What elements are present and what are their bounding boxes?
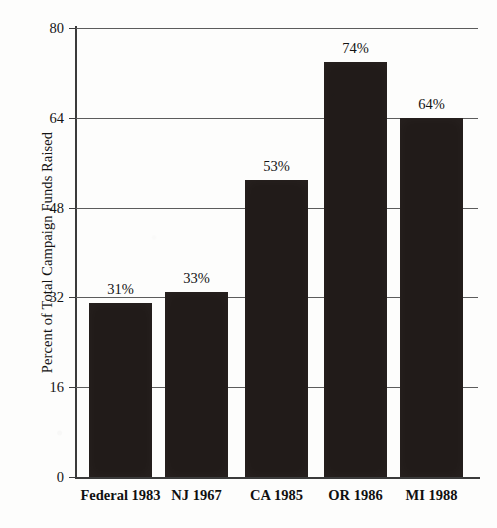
y-tick-mark-32 <box>69 297 76 298</box>
x-axis-line <box>75 477 480 479</box>
bar-value-label-4: 64% <box>382 97 481 112</box>
y-tick-mark-0 <box>69 477 76 478</box>
y-tick-mark-48 <box>69 208 76 209</box>
bar-4[interactable] <box>400 118 463 477</box>
bar-2[interactable] <box>245 180 308 477</box>
bar-value-label-3: 74% <box>306 41 405 56</box>
x-axis-category-label-4: MI 1988 <box>378 488 485 503</box>
bar-0[interactable] <box>89 303 152 477</box>
bar-1[interactable] <box>165 292 228 477</box>
y-axis-line <box>75 26 77 479</box>
y-axis-title: Percent of Total Campaign Funds Raised <box>34 28 60 477</box>
bar-value-label-1: 33% <box>147 271 246 286</box>
y-tick-label-48: 48 <box>20 201 64 216</box>
y-tick-label-16: 16 <box>20 380 64 395</box>
y-tick-mark-16 <box>69 387 76 388</box>
y-tick-label-80: 80 <box>20 21 64 36</box>
y-tick-mark-80 <box>69 28 76 29</box>
chart-page: Percent of Total Campaign Funds Raised 0… <box>0 0 497 528</box>
y-tick-mark-64 <box>69 118 76 119</box>
y-tick-label-0: 0 <box>20 470 64 485</box>
gridline-80 <box>75 28 478 29</box>
bar-value-label-2: 53% <box>227 159 326 174</box>
bar-3[interactable] <box>324 62 387 477</box>
y-tick-label-32: 32 <box>20 290 64 305</box>
y-tick-label-64: 64 <box>20 111 64 126</box>
